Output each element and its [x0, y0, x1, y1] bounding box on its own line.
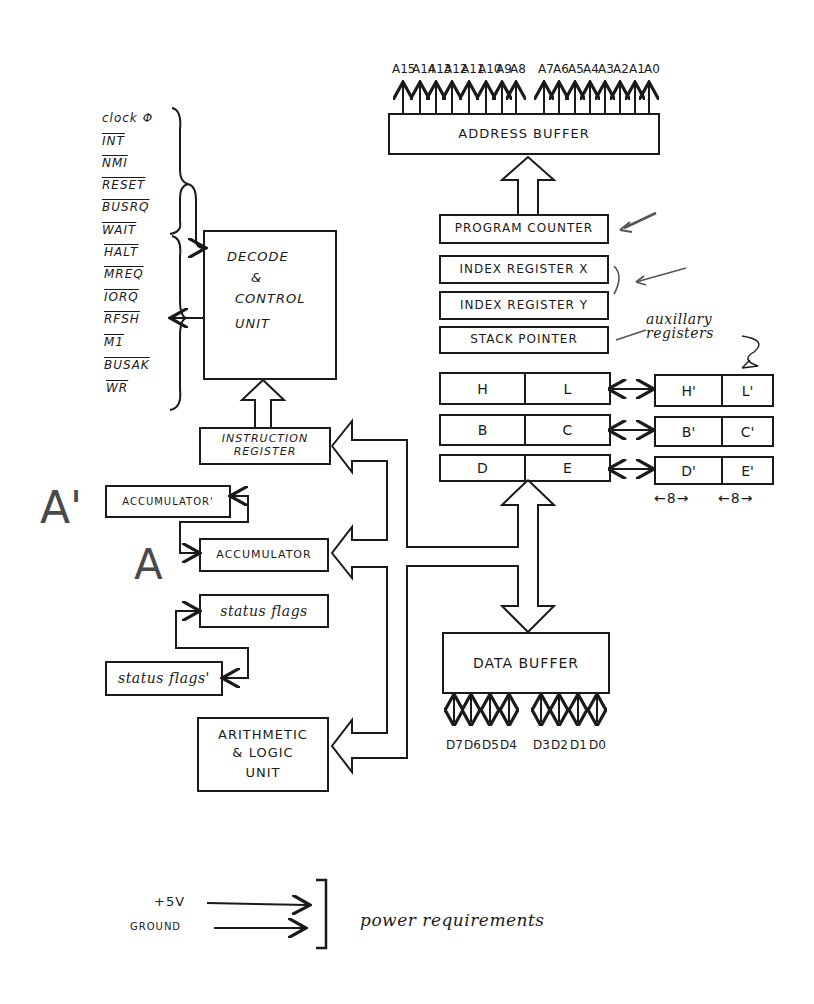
signal-busak: BUSAK	[104, 358, 150, 372]
register-h-alt: H'	[656, 376, 721, 405]
status-flags: status flags	[199, 594, 329, 628]
stack-pointer-label: STACK POINTER	[470, 333, 578, 347]
signal-int: INT	[102, 134, 125, 148]
signal-halt: HALT	[104, 245, 138, 259]
signal-rfsh: RFSH	[104, 312, 140, 326]
register-l-alt: L'	[721, 376, 772, 405]
accumulator-alt-label: ACCUMULATOR'	[122, 496, 213, 508]
index-x-label: INDEX REGISTER X	[459, 263, 588, 277]
bus-pc-to-address	[502, 157, 554, 214]
data-buffer-label: DATA BUFFER	[473, 655, 579, 671]
address-pin: A0	[644, 62, 660, 76]
alu-logic-label: & LOGIC	[232, 746, 293, 761]
address-pin: A3	[598, 62, 614, 76]
arithmetic-logic-unit: ARITHMETIC & LOGIC UNIT	[197, 717, 329, 792]
accumulator-label: ACCUMULATOR	[216, 549, 311, 562]
data-pin: D6	[464, 738, 481, 752]
status-flags-label: status flags	[220, 603, 308, 619]
register-b-alt: B'	[656, 418, 721, 445]
program-counter-label: PROGRAM COUNTER	[455, 222, 593, 236]
power-ground-label: GROUND	[130, 921, 181, 932]
power-5v-label: +5V	[154, 894, 185, 909]
register-d-alt: D'	[656, 458, 721, 483]
bit-width-left: ←8→	[654, 490, 689, 506]
status-flags-alt: status flags'	[105, 661, 223, 696]
unit-label: UNIT	[235, 317, 270, 332]
data-pin-arrows	[454, 696, 597, 722]
address-pin: A5	[568, 62, 584, 76]
instruction-register: INSTRUCTION REGISTER	[199, 427, 331, 465]
register-pair-hl: H L	[439, 372, 611, 405]
address-pin: A4	[583, 62, 599, 76]
data-pin: D7	[446, 738, 463, 752]
register-e: E	[524, 456, 609, 480]
signal-reset: RESET	[102, 178, 145, 192]
data-buffer: DATA BUFFER	[442, 632, 610, 694]
ampersand-label: &	[251, 271, 262, 286]
index-register-y: INDEX REGISTER Y	[439, 291, 609, 320]
signal-wait: WAIT	[102, 223, 136, 237]
accumulator-annotation: A	[134, 540, 163, 589]
register-h: H	[441, 374, 524, 403]
bus-data	[502, 480, 554, 632]
program-counter: PROGRAM COUNTER	[439, 214, 609, 244]
data-pin: D2	[551, 738, 568, 752]
register-c-alt: C'	[721, 418, 772, 445]
bus-ir-to-decode	[242, 380, 284, 427]
stack-pointer: STACK POINTER	[439, 326, 609, 354]
auxiliary-registers-note: auxillary registers	[646, 312, 726, 340]
alu-arithmetic-label: ARITHMETIC	[218, 728, 308, 743]
data-pin: D3	[533, 738, 550, 752]
power-requirements-note: power requirements	[360, 910, 545, 930]
status-flags-alt-label: status flags'	[118, 670, 210, 686]
signal-clock: clock Φ	[102, 111, 153, 125]
signal-busrq: BUSRQ	[102, 200, 149, 214]
signal-mreq: MREQ	[104, 267, 144, 281]
accumulator-alt: ACCUMULATOR'	[105, 485, 231, 518]
data-pin: D4	[500, 738, 517, 752]
register-e-alt: E'	[721, 458, 772, 483]
register-pair-bc: B C	[439, 414, 611, 446]
signal-m1: M1	[104, 335, 124, 349]
address-buffer-label: ADDRESS BUFFER	[458, 127, 589, 142]
register-pair-de-alt: D' E'	[654, 456, 774, 485]
register-label: REGISTER	[234, 446, 297, 459]
register-l: L	[524, 374, 609, 403]
index-register-x: INDEX REGISTER X	[439, 255, 609, 284]
data-pin: D5	[482, 738, 499, 752]
register-pair-hl-alt: H' L'	[654, 374, 774, 407]
signal-wr: WR	[106, 381, 128, 395]
accumulator: ACCUMULATOR	[199, 538, 329, 572]
register-pair-bc-alt: B' C'	[654, 416, 774, 447]
address-pin: A1	[629, 62, 645, 76]
address-pin-arrows	[403, 84, 649, 113]
register-b: B	[441, 416, 524, 444]
address-pin: A6	[553, 62, 569, 76]
accumulator-alt-annotation: A'	[40, 482, 82, 533]
data-pin: D1	[570, 738, 587, 752]
bit-width-right: ←8→	[718, 490, 753, 506]
register-c: C	[524, 416, 609, 444]
index-y-label: INDEX REGISTER Y	[460, 299, 588, 313]
address-pin: A2	[613, 62, 629, 76]
control-label: CONTROL	[235, 292, 305, 307]
decode-label: DECODE	[227, 250, 289, 265]
register-d: D	[441, 456, 524, 480]
address-pin: A8	[510, 62, 526, 76]
alu-unit-label: UNIT	[245, 766, 280, 781]
signal-iorq: IORQ	[104, 290, 139, 304]
register-pair-de: D E	[439, 454, 611, 482]
address-pin: A7	[538, 62, 554, 76]
signal-nmi: NMI	[102, 156, 128, 170]
data-pin: D0	[589, 738, 606, 752]
address-buffer: ADDRESS BUFFER	[388, 113, 660, 155]
decode-control-unit: DECODE & CONTROL UNIT	[203, 230, 337, 380]
